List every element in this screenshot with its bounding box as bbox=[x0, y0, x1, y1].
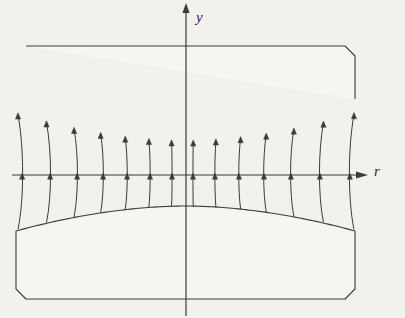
grid-line-vertical bbox=[319, 123, 323, 222]
mesh-node-upper bbox=[44, 121, 49, 127]
mesh-node-axis bbox=[261, 173, 266, 179]
mesh-node-axis bbox=[212, 173, 217, 179]
mesh-node-upper bbox=[213, 139, 218, 145]
mesh-node-axis bbox=[288, 173, 293, 179]
mesh-node-axis bbox=[75, 173, 80, 179]
mesh-node-axis bbox=[317, 173, 322, 179]
r-axis-arrowhead bbox=[356, 171, 368, 178]
mesh-node-upper bbox=[238, 137, 243, 143]
y-axis-label: y bbox=[194, 9, 203, 25]
mesh-node-upper bbox=[191, 140, 196, 146]
grid-line-vertical bbox=[47, 123, 51, 223]
mesh-node-upper bbox=[264, 133, 269, 139]
mesh-node-axis bbox=[347, 173, 352, 179]
grid-line-vertical bbox=[349, 115, 354, 230]
mesh-node-upper bbox=[351, 113, 356, 119]
mesh-node-upper bbox=[321, 121, 326, 127]
mesh-node-axis bbox=[169, 173, 174, 179]
y-axis-arrowhead bbox=[182, 3, 189, 13]
mesh-node-upper bbox=[98, 132, 103, 138]
r-axis-label: r bbox=[374, 163, 380, 179]
mesh-node-upper bbox=[291, 128, 296, 134]
mesh-node-upper bbox=[169, 140, 174, 146]
mesh-node-axis bbox=[124, 173, 129, 179]
deformed-grid-diagram: yr bbox=[0, 0, 405, 318]
mesh-node-axis bbox=[236, 173, 241, 179]
mesh-node-upper bbox=[71, 127, 76, 133]
mesh-node-axis bbox=[48, 173, 53, 179]
figure-canvas: yr bbox=[0, 0, 405, 318]
mesh-node-upper bbox=[15, 113, 20, 119]
upper-elastic-body bbox=[26, 46, 355, 99]
mesh-node-axis bbox=[190, 173, 195, 179]
grid-line-vertical bbox=[18, 115, 23, 230]
mesh-node-axis bbox=[147, 173, 152, 179]
mesh-node-upper bbox=[146, 138, 151, 144]
mesh-node-axis bbox=[20, 173, 25, 179]
mesh-node-upper bbox=[123, 136, 128, 142]
mesh-node-axis bbox=[100, 173, 105, 179]
